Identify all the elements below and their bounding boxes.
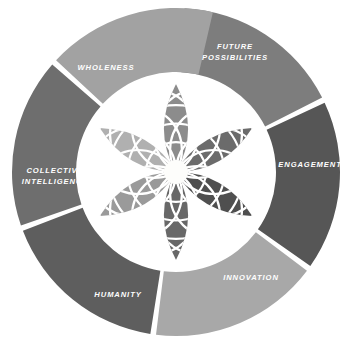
segment-label-innovation: INNOVATION <box>223 273 279 282</box>
wheel-svg: FUTUREPOSSIBILITIESENGAGEMENTINNOVATIONH… <box>0 0 353 339</box>
segment-label-humanity: HUMANITY <box>94 290 141 299</box>
rosette-hub <box>164 160 188 184</box>
segment-label-engagement: ENGAGEMENT <box>278 160 342 169</box>
segment-label-wholeness: WHOLENESS <box>77 63 134 72</box>
capability-wheel-diagram: FUTUREPOSSIBILITIESENGAGEMENTINNOVATIONH… <box>0 0 353 339</box>
